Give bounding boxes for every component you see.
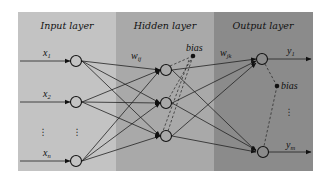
hidden-bias-node [191,54,196,59]
output-layer-title: Output layer [233,20,295,31]
output-bias-label: bias [281,80,298,91]
input-layer-title: Input layer [39,20,95,31]
input-label-ellipsis: ⋮ [39,127,48,137]
input-node-ellipsis: ⋮ [73,127,82,137]
output-ellipsis: ⋮ [285,107,294,117]
input-layer-panel [18,12,116,171]
hidden-bias-label: bias [186,42,203,53]
output-bias-node [275,84,280,89]
hidden-layer-panel [116,12,214,171]
neural-network-diagram: Input layer Hidden layer Output layer [0,0,329,180]
hidden-layer-title: Hidden layer [133,20,198,31]
